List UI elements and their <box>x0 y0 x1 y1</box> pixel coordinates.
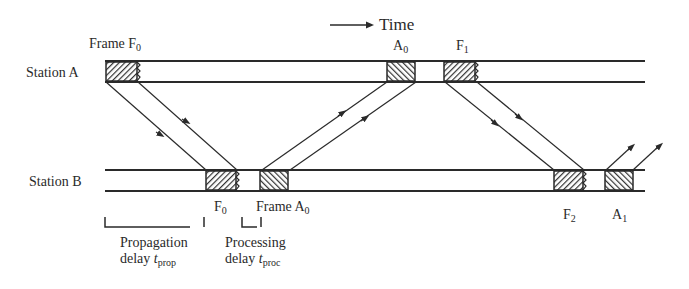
label-subscript: 0 <box>136 42 141 53</box>
ack-a0-block-a <box>387 62 415 81</box>
frame-f0-block-b <box>206 171 239 190</box>
f0-propagation-lines <box>106 82 237 170</box>
processing-delay-bracket <box>242 217 261 227</box>
propagation-delay-bracket <box>105 217 204 227</box>
frame-f0-block-a <box>106 62 140 81</box>
a1-propagation-lines <box>606 146 660 171</box>
ack-a0-block-b <box>260 171 288 190</box>
annotation-line2: delay tprop <box>120 251 188 271</box>
f0-label-b: F0 <box>214 200 227 216</box>
label-text: F <box>563 207 571 222</box>
f1-label-a: F1 <box>456 39 469 55</box>
a0-propagation-lines <box>262 82 416 170</box>
label-subscript: 0 <box>305 205 310 216</box>
ack-a1-block-b <box>605 171 633 190</box>
label-subscript: prop <box>158 257 176 268</box>
time-label: Time <box>379 16 414 33</box>
label-text: F <box>214 199 222 214</box>
frame-f2-block-b <box>554 171 586 190</box>
label-subscript: 1 <box>464 44 469 55</box>
label-text: delay <box>120 251 154 266</box>
a1-label-b: A1 <box>612 208 627 224</box>
label-text: Frame F <box>89 36 136 51</box>
label-text: A <box>612 207 622 222</box>
time-arrow-icon <box>330 22 374 29</box>
f1-propagation-lines <box>445 82 584 170</box>
f2-label-b: F2 <box>563 208 576 224</box>
annotation-line2: delay tproc <box>225 251 286 271</box>
label-text: A <box>393 38 403 53</box>
a0-label-a: A0 <box>393 39 408 55</box>
station-a-label: Station A <box>26 66 79 80</box>
label-subscript: 0 <box>222 205 227 216</box>
label-text: F <box>456 38 464 53</box>
label-text: Frame A <box>256 199 305 214</box>
frame-f0-label-a: Frame F0 <box>89 37 141 53</box>
label-subscript: 2 <box>571 213 576 224</box>
station-b-label: Station B <box>29 175 82 189</box>
frame-a0-label-b: Frame A0 <box>256 200 310 216</box>
frame-f1-block-a <box>444 62 478 81</box>
label-subscript: proc <box>263 257 281 268</box>
label-text: delay <box>225 251 259 266</box>
propagation-delay-label: Propagation delay tprop <box>120 235 188 271</box>
label-subscript: 1 <box>622 213 627 224</box>
label-subscript: 0 <box>403 44 408 55</box>
annotation-line1: Propagation <box>120 235 188 251</box>
processing-delay-label: Processing delay tproc <box>225 235 286 271</box>
annotation-line1: Processing <box>225 235 286 251</box>
station-a-timeline <box>105 61 645 82</box>
